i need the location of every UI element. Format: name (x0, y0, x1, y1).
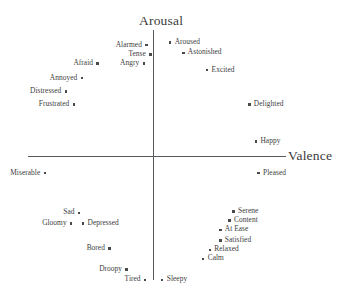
data-point-marker (144, 279, 146, 281)
data-point-label: Excited (212, 66, 235, 74)
data-point-label: Droopy (99, 265, 122, 273)
data-point-marker (81, 77, 83, 79)
data-point-label: Aroused (175, 38, 200, 46)
data-point-marker (65, 90, 67, 92)
data-point-marker (219, 239, 221, 241)
data-point-label: Angry (120, 59, 139, 67)
data-point-marker (257, 172, 259, 174)
arousal-axis-title: Arousal (139, 13, 183, 29)
arousal-axis-line (153, 30, 154, 280)
data-point-label: Tense (128, 50, 145, 58)
data-point-marker (232, 210, 234, 212)
data-point-marker (78, 212, 80, 214)
data-point-marker (206, 69, 208, 71)
data-point-marker (169, 41, 171, 43)
valence-axis-line (28, 156, 286, 157)
data-point-marker (70, 222, 72, 224)
data-point-label: Satisfied (225, 236, 251, 244)
data-point-label: Pleased (263, 169, 286, 177)
data-point-label: Delighted (254, 100, 284, 108)
data-point-marker (108, 247, 110, 249)
data-point-label: Tired (125, 275, 141, 283)
data-point-marker (219, 229, 221, 231)
data-point-marker (125, 268, 127, 270)
data-point-label: Depressed (88, 219, 119, 227)
data-point-marker (73, 103, 75, 105)
data-point-label: Astonished (188, 48, 222, 56)
data-point-label: Afraid (73, 59, 93, 67)
data-point-marker (182, 52, 184, 54)
data-point-label: Miserable (10, 169, 40, 177)
data-point-label: Happy (260, 137, 280, 145)
data-point-label: Serene (238, 207, 258, 215)
data-point-label: Content (234, 216, 258, 224)
data-point-label: Sleepy (167, 275, 187, 283)
data-point-marker (202, 258, 204, 260)
data-point-label: Frustrated (39, 100, 69, 108)
data-point-label: Bored (87, 244, 105, 252)
data-point-label: Sad (63, 208, 74, 216)
data-point-marker (161, 279, 163, 281)
affect-circumplex-scatter-plot: Arousal Valence AlarmedTenseAngryAfraidA… (0, 0, 337, 297)
data-point-marker (209, 249, 211, 251)
data-point-label: At Ease (225, 225, 249, 233)
data-point-marker (228, 219, 230, 221)
data-point-label: Gloomy (42, 219, 67, 227)
valence-axis-title: Valence (288, 148, 332, 164)
data-point-marker (255, 140, 257, 142)
data-point-marker (149, 53, 151, 55)
data-point-marker (145, 44, 147, 46)
data-point-marker (143, 62, 145, 64)
data-point-label: Distressed (30, 87, 61, 95)
data-point-label: Calm (208, 254, 224, 262)
data-point-label: Alarmed (116, 41, 142, 49)
data-point-marker (44, 172, 46, 174)
data-point-label: Annoyed (50, 74, 77, 82)
data-point-marker (96, 62, 98, 64)
data-point-marker (82, 222, 84, 224)
data-point-marker (248, 103, 250, 105)
data-point-label: Relaxed (214, 245, 239, 253)
